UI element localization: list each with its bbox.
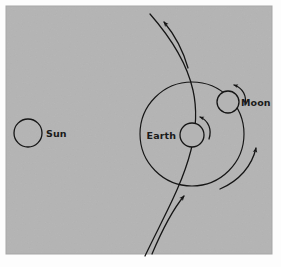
earth-body <box>180 123 204 147</box>
diagram-figure: Sun Earth Moon <box>0 0 281 267</box>
moon-body <box>217 91 239 113</box>
moon-label: Moon <box>241 97 271 108</box>
sun-label: Sun <box>46 128 67 139</box>
earth-label: Earth <box>147 130 177 141</box>
diagram-canvas: Sun Earth Moon <box>0 0 281 267</box>
